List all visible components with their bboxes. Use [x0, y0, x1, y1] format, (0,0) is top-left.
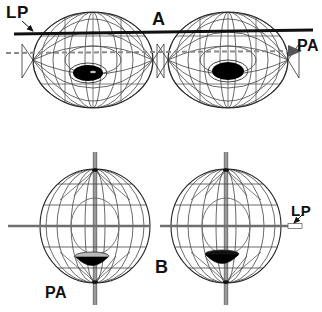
- lp-end-cap-b: [288, 224, 302, 229]
- right-sphere-a-pole-cap-left: [157, 44, 168, 78]
- right-sphere-a-blob: [212, 62, 244, 80]
- label-lp-panel-a: LP: [6, 4, 29, 21]
- label-panel-b: B: [155, 258, 169, 276]
- right-sphere-a: [157, 10, 299, 112]
- left-sphere-a-blob: [73, 65, 103, 81]
- label-pa-panel-a: PA: [297, 38, 319, 54]
- panel-b: [8, 152, 302, 305]
- lp-plane-line-b: [8, 224, 302, 229]
- left-sphere-b: [40, 152, 150, 305]
- left-sphere-a-pole-cap-left: [22, 44, 33, 78]
- right-sphere-b: [171, 152, 281, 305]
- right-sphere-b-north-pole: [223, 168, 229, 172]
- left-sphere-a-blob-highlight: [90, 71, 96, 74]
- right-sphere-b-south-pole: [223, 280, 229, 284]
- left-sphere-b-north-pole: [92, 168, 98, 172]
- left-sphere-a-pole-cap-right: [153, 44, 164, 78]
- right-sphere-b-blob: [206, 255, 238, 264]
- left-sphere-b-south-pole: [92, 280, 98, 284]
- label-panel-a: A: [152, 10, 166, 28]
- label-pa-panel-b: PA: [45, 285, 67, 301]
- left-sphere-a: [22, 10, 164, 112]
- lp-plane-line-a: [14, 30, 313, 34]
- label-lp-panel-b: LP: [291, 203, 311, 218]
- lp-leader-arrow-a: [22, 21, 33, 31]
